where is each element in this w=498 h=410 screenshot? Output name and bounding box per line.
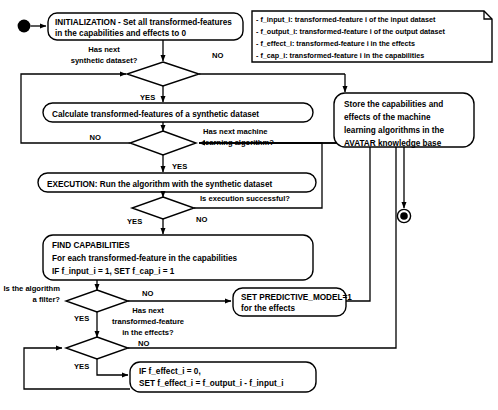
set-effect-line2: SET f_effect_i = f_output_i - f_input_i [139,379,283,388]
store-line4: AVATAR knowledge base [344,139,442,148]
initialization-line1: INITIALIZATION - Set all transformed-fea… [55,18,232,27]
legend-item-2: - f_effect_i: transformed-feature i in t… [256,39,415,48]
set-effect-line1: IF f_effect_i = 0, [139,367,201,376]
decision-has-next-feature [66,337,128,359]
set-predictive-model-line1: SET PREDICTIVE_MODEL=1 [241,293,352,302]
decision-has-next-algorithm [130,131,196,155]
find-capabilities-line3: IF f_input_i = 1, SET f_cap_i = 1 [52,267,175,276]
decision-execution-successful [132,197,194,219]
end-state [400,212,408,220]
start-state [18,20,31,33]
legend-item-0: - f_input_i: transformed-feature i of th… [256,15,436,24]
set-predictive-model-line2: for the effects [241,304,296,313]
find-capabilities-line1: FIND CAPABILITIES [52,241,130,250]
edge-label-exec-yes: YES [127,217,142,226]
legend-item-3: - f_cap_i: transformed-feature i in the … [256,51,424,60]
edge-label-filter-no: NO [142,289,153,298]
decision-filter-label-line1: Is the algorithm [3,284,60,293]
calculate-line1: Calculate transformed-features of a synt… [52,110,259,119]
store-line3: learning algorithms in the [344,126,445,135]
decision-feature-label-line1: Has next [132,306,164,315]
decision-filter-label-line2: a filter? [33,295,61,304]
edge-label-feature-yes: YES [74,362,89,371]
find-capabilities-line2: For each transformed-feature in the capa… [52,254,238,263]
decision-feature-label-line2: transformed-feature [112,317,184,326]
edge-label-exec-no: NO [196,215,207,224]
edge-label-algorithm-no: NO [90,133,101,142]
legend-item-1: - f_output_i: transformed-feature i of t… [256,27,445,36]
edge-label-algorithm-yes: YES [172,162,187,171]
flowchart-canvas: INITIALIZATION - Set all transformed-fea… [0,0,498,410]
decision-is-filter [66,290,128,312]
store-line1: Store the capabilities and [344,100,443,109]
execution-line1: EXECUTION: Run the algorithm with the sy… [47,180,272,189]
decision-dataset-label-line2: synthetic dataset? [71,56,138,65]
decision-feature-label-line3: in the effects? [122,328,174,337]
edge-feature-yes-to-set-effect [97,359,128,375]
decision-success-label-line1: Is execution successful? [200,194,290,203]
decision-algorithm-label-line1: Has next machine [203,127,268,136]
edge-label-feature-no: NO [138,339,149,348]
decision-has-next-dataset [127,62,199,86]
initialization-line2: in the capabilities and effects to 0 [55,29,186,38]
edge-label-dataset-yes: YES [140,93,155,102]
edge-label-filter-yes: YES [74,314,89,323]
flowchart-svg: INITIALIZATION - Set all transformed-fea… [0,0,498,410]
decision-dataset-label-line1: Has next [88,45,120,54]
edge-label-dataset-no: NO [212,51,223,60]
store-line2: effects of the machine [344,113,431,122]
